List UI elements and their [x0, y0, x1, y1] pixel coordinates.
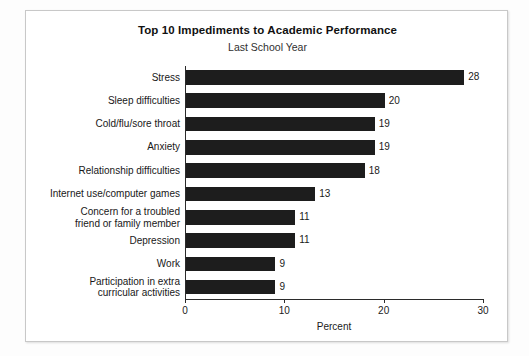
bar	[186, 70, 464, 85]
category-label: Internet use/computer games	[20, 188, 180, 199]
bar	[186, 187, 315, 202]
category-label: Participation in extra curricular activi…	[20, 276, 180, 299]
bar-row: Cold/flu/sore throat19	[185, 113, 483, 136]
x-tick-mark	[284, 299, 285, 303]
bar-value-label: 11	[299, 233, 309, 247]
x-tick-mark	[483, 299, 484, 303]
bar	[186, 233, 295, 248]
category-label: Concern for a troubled friend or family …	[20, 206, 180, 229]
x-tick-mark	[185, 299, 186, 303]
x-axis-title: Percent	[185, 321, 483, 332]
chart-page: Top 10 Impediments to Academic Performan…	[0, 0, 529, 356]
bar-row: Internet use/computer games13	[185, 183, 483, 206]
bar-value-label: 18	[369, 164, 380, 178]
bar	[186, 163, 365, 178]
bar-value-label: 9	[279, 280, 285, 294]
category-label: Stress	[20, 72, 180, 83]
bar-value-label: 11	[299, 210, 309, 224]
bar-row: Depression11	[185, 229, 483, 252]
bar	[186, 93, 385, 108]
bar	[186, 140, 375, 155]
category-label: Depression	[20, 235, 180, 246]
bar	[186, 117, 375, 132]
bar-row: Relationship difficulties18	[185, 159, 483, 182]
bar-row: Participation in extra curricular activi…	[185, 276, 483, 299]
category-label: Anxiety	[20, 141, 180, 152]
x-tick-label: 10	[279, 305, 290, 316]
bar-value-label: 19	[379, 117, 390, 131]
category-label: Cold/flu/sore throat	[20, 118, 180, 129]
bar-value-label: 19	[379, 140, 390, 154]
category-label: Work	[20, 258, 180, 269]
plot-area: Stress28Sleep difficulties20Cold/flu/sor…	[185, 66, 483, 299]
chart-subtitle: Last School Year	[26, 41, 509, 53]
x-tick-label: 0	[182, 305, 188, 316]
bar-row: Work9	[185, 252, 483, 275]
category-label: Relationship difficulties	[20, 165, 180, 176]
x-tick-mark	[384, 299, 385, 303]
x-axis-line	[185, 299, 484, 300]
bar	[186, 280, 275, 295]
chart-frame: Top 10 Impediments to Academic Performan…	[25, 10, 508, 342]
bar-value-label: 20	[389, 94, 400, 108]
category-label: Sleep difficulties	[20, 95, 180, 106]
x-tick-label: 20	[378, 305, 389, 316]
bar-row: Anxiety19	[185, 136, 483, 159]
bar	[186, 257, 275, 272]
bar-value-label: 9	[279, 257, 285, 271]
x-tick-label: 30	[477, 305, 488, 316]
bar-row: Stress28	[185, 66, 483, 89]
bar-value-label: 13	[319, 187, 330, 201]
chart-title: Top 10 Impediments to Academic Performan…	[26, 24, 509, 36]
bar-row: Concern for a troubled friend or family …	[185, 206, 483, 229]
bar-value-label: 28	[468, 70, 479, 84]
bar	[186, 210, 295, 225]
bar-row: Sleep difficulties20	[185, 89, 483, 112]
